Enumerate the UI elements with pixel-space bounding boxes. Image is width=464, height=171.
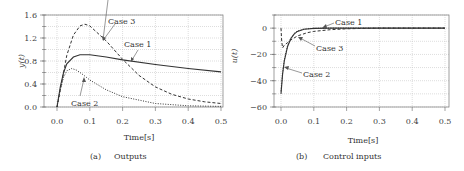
annotation-case-3: Case 3: [102, 0, 135, 41]
y-tick-label: 1.2: [24, 34, 37, 43]
annotation-label: Case 2: [71, 99, 98, 108]
plot-frame: [274, 15, 449, 107]
axis-ticks: 0.00.10.20.30.40.50.00.40.81.21.6: [24, 11, 227, 126]
caption-tag: (b): [296, 152, 307, 161]
x-tick-label: 0.0: [275, 117, 288, 126]
annotation-case-1: Case 1: [124, 40, 151, 62]
y-tick-label: 0.4: [24, 80, 37, 89]
x-tick-label: 0.1: [83, 117, 96, 126]
annotation-label: Case 3: [316, 44, 343, 53]
annotation-case-1: Case 1: [322, 18, 362, 28]
annotation-label: Case 3: [108, 17, 135, 26]
x-tick-label: 0.5: [439, 117, 452, 126]
figure: 0.00.10.20.30.40.50.00.40.81.21.6 Case 3…: [0, 0, 464, 171]
caption: Control inputs: [323, 152, 381, 161]
x-tick-label: 0.0: [51, 117, 64, 126]
x-tick-label: 0.1: [307, 117, 320, 126]
annotation-case-3: Case 3: [298, 37, 343, 53]
x-tick-label: 0.3: [149, 117, 162, 126]
caption-tag: (a): [90, 152, 101, 161]
series-lines: [281, 28, 445, 94]
series-case-2: [281, 28, 445, 91]
y-tick-label: −40: [250, 77, 267, 86]
series-case-1: [281, 28, 445, 94]
x-tick-label: 0.4: [182, 117, 195, 126]
control-inputs-chart: 0.00.10.20.30.40.50−20−40−60 Case 1 Case…: [230, 15, 451, 161]
x-tick-label: 0.4: [406, 117, 419, 126]
series-case-3: [281, 28, 445, 48]
y-tick-label: −60: [250, 103, 267, 112]
x-tick-label: 0.5: [215, 117, 228, 126]
annotation-case-2: Case 2: [71, 77, 98, 108]
x-axis-label: Time[s]: [124, 133, 155, 142]
annotation-label: Case 1: [335, 18, 362, 27]
y-axis-label: y(t): [17, 54, 26, 69]
axis-ticks: 0.00.10.20.30.40.50−20−40−60: [250, 15, 451, 126]
series-lines: [57, 24, 221, 107]
caption: Outputs: [114, 152, 147, 161]
outputs-chart: 0.00.10.20.30.40.50.00.40.81.21.6 Case 3…: [17, 0, 227, 161]
y-tick-label: −20: [250, 50, 267, 59]
annotation-label: Case 1: [124, 40, 151, 49]
y-axis-label: u(t): [230, 49, 239, 64]
y-tick-label: 0: [262, 24, 267, 33]
x-tick-label: 0.3: [373, 117, 386, 126]
series-case-3: [57, 24, 221, 107]
y-tick-label: 0.0: [24, 103, 37, 112]
x-axis-label: Time[s]: [348, 136, 379, 145]
y-tick-label: 1.6: [24, 11, 37, 20]
annotation-case-2: Case 2: [284, 66, 330, 79]
annotation-label: Case 2: [303, 70, 330, 79]
x-tick-label: 0.2: [340, 117, 353, 126]
y-tick-label: 0.8: [24, 57, 37, 66]
grid: [274, 15, 449, 107]
x-tick-label: 0.2: [116, 117, 129, 126]
